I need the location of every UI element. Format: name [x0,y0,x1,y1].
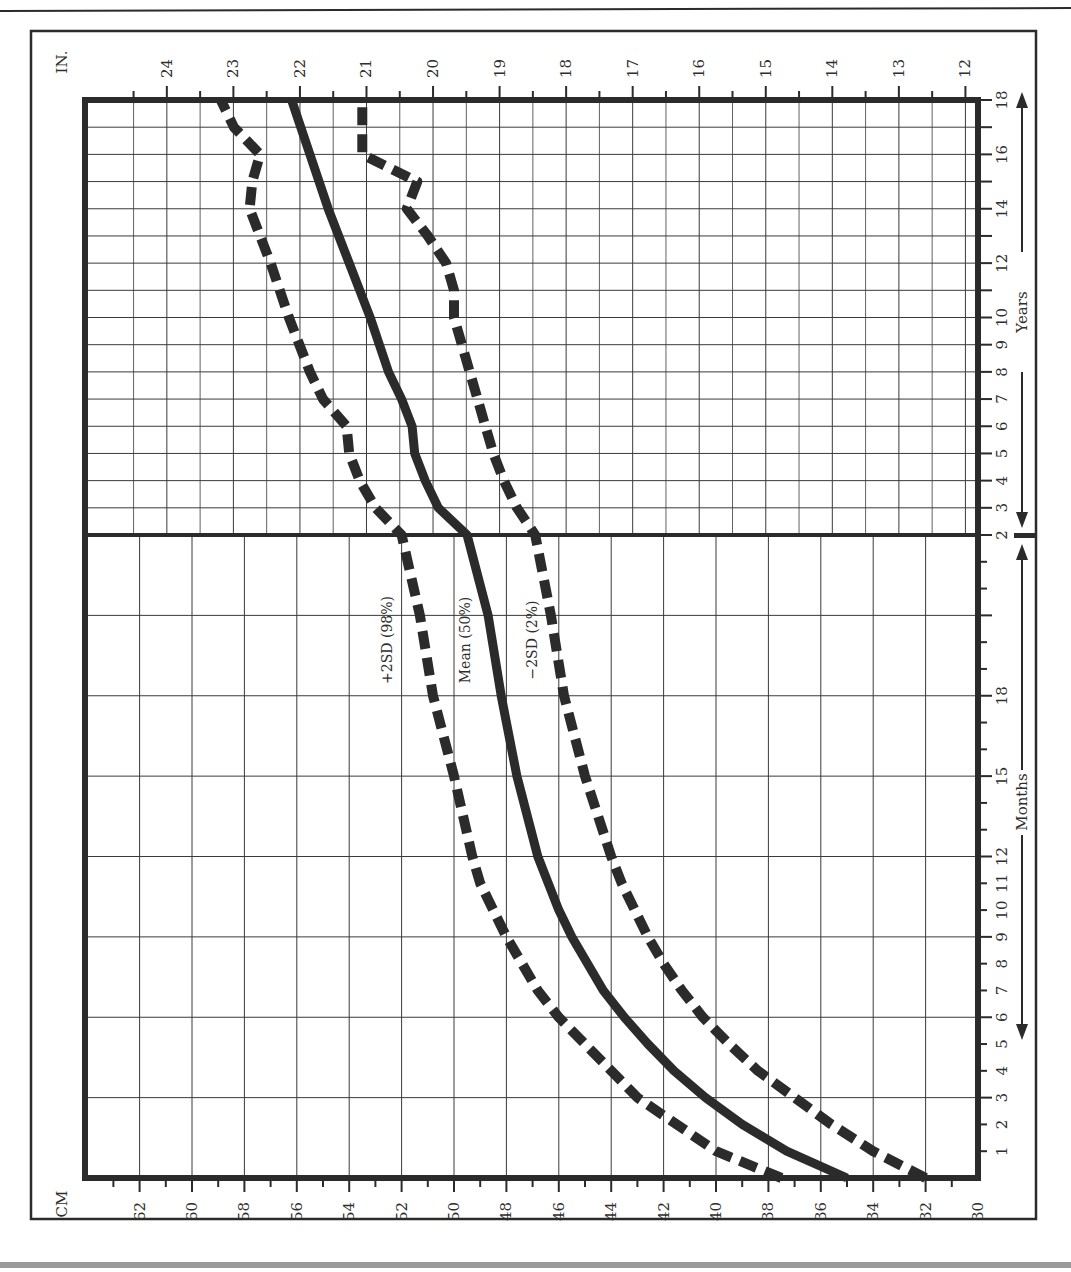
years-arrow: Years [1013,92,1031,528]
month-tick-label: 9 [993,932,1011,942]
in-tick-label: 15 [757,59,775,78]
year-tick-label: 2 [993,530,1011,540]
year-tick-label: 8 [993,367,1011,377]
month-tick-label: 8 [993,959,1011,969]
years-label: Years [1013,291,1031,333]
cm-tick-label: 58 [235,1202,253,1221]
in-tick-label: 24 [158,59,176,78]
cm-tick-label: 48 [497,1202,515,1221]
mean-curve [292,100,847,1178]
month-tick-label: 2 [993,1120,1011,1130]
in-tick-label: 21 [357,59,375,78]
in-tick-label: 17 [624,59,642,78]
growth-chart: 6260585654525048464442403836343230242322… [0,0,1071,1272]
year-tick-label: 7 [993,394,1011,404]
cm-tick-label: 60 [183,1202,201,1221]
cm-tick-label: 56 [288,1202,306,1221]
cm-tick-label: 46 [550,1202,568,1221]
cm-tick-label: 36 [812,1202,830,1221]
cm-tick-label: 38 [759,1202,777,1221]
footer-bar [0,1262,1071,1268]
year-tick-label: 12 [993,254,1011,273]
month-tick-label: 1 [993,1146,1011,1156]
axis-ticks: 6260585654525048464442403836343230242322… [113,59,1011,1221]
month-tick-label: 7 [993,986,1011,996]
year-tick-label: 3 [993,503,1011,513]
in-tick-label: 19 [491,59,509,78]
year-tick-label: 10 [993,308,1011,327]
in-tick-label: 14 [823,59,841,78]
plus2sd-label: +2SD (98%) [379,596,395,684]
cm-tick-label: 50 [445,1202,463,1221]
month-tick-label: 12 [993,847,1011,866]
year-tick-label: 9 [993,340,1011,350]
mean-label: Mean (50%) [457,597,473,683]
cm-tick-label: 40 [707,1202,725,1221]
year-tick-label: 5 [993,449,1011,459]
cm-tick-label: 62 [131,1202,149,1221]
in-tick-label: 18 [557,59,575,78]
in-tick-label: 20 [424,59,442,78]
month-tick-label: 5 [993,1039,1011,1049]
cm-tick-label: 34 [864,1202,882,1221]
year-tick-label: 16 [993,145,1011,164]
top-rule [0,8,1071,11]
month-tick-label: 18 [993,686,1011,705]
year-tick-label: 18 [993,90,1011,109]
months-label: Months [1013,773,1031,830]
months-arrow: Months [1013,544,1031,1040]
year-tick-label: 4 [993,476,1011,486]
month-tick-label: 10 [993,901,1011,920]
cm-tick-label: 30 [969,1202,987,1221]
month-tick-label: 15 [993,767,1011,786]
month-tick-label: 3 [993,1093,1011,1103]
year-tick-label: 6 [993,421,1011,431]
minus2sd-label: −2SD (2%) [524,600,540,679]
divider-marker [1014,533,1036,538]
cm-tick-label: 32 [917,1202,935,1221]
year-tick-label: 14 [993,199,1011,218]
cm-axis-title: CM [53,1191,71,1218]
in-tick-label: 16 [690,59,708,78]
in-tick-label: 13 [890,59,908,78]
month-tick-label: 4 [993,1066,1011,1076]
in-tick-label: 23 [224,59,242,78]
month-tick-label: 6 [993,1012,1011,1022]
in-tick-label: 12 [956,59,974,78]
cm-tick-label: 42 [655,1202,673,1221]
cm-tick-label: 52 [393,1202,411,1221]
in-tick-label: 22 [291,59,309,78]
minus2sd-curve [362,100,925,1178]
in-axis-title: IN. [53,51,71,74]
month-tick-label: 11 [993,874,1011,893]
growth-curves [221,100,926,1178]
cm-tick-label: 44 [602,1202,620,1221]
cm-tick-label: 54 [340,1202,358,1221]
